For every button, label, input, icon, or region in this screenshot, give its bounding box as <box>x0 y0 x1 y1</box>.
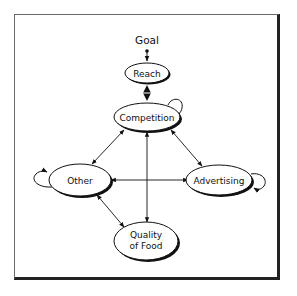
goal-label: Goal <box>135 34 159 46</box>
node-other: Other <box>49 164 113 198</box>
node-quality-of-food: Quality of Food <box>114 222 180 262</box>
diagram-canvas: Goal Reach Competition Other Advertising… <box>0 0 297 296</box>
edge-competition-other <box>92 130 124 164</box>
node-competition: Competition <box>114 103 182 133</box>
edge-reach-competition <box>143 85 151 101</box>
edge-goal-reach <box>145 49 149 61</box>
node-reach-label: Reach <box>133 69 161 79</box>
node-reach: Reach <box>125 63 171 85</box>
edge-competition-advertising <box>171 130 202 166</box>
node-advertising: Advertising <box>186 165 254 197</box>
node-quality-label-line1: Quality <box>130 230 163 240</box>
edge-other-quality <box>97 195 124 227</box>
node-quality-label-line2: of Food <box>129 241 162 251</box>
node-competition-label: Competition <box>119 113 174 123</box>
node-advertising-label: Advertising <box>194 176 245 186</box>
node-other-label: Other <box>67 176 93 186</box>
